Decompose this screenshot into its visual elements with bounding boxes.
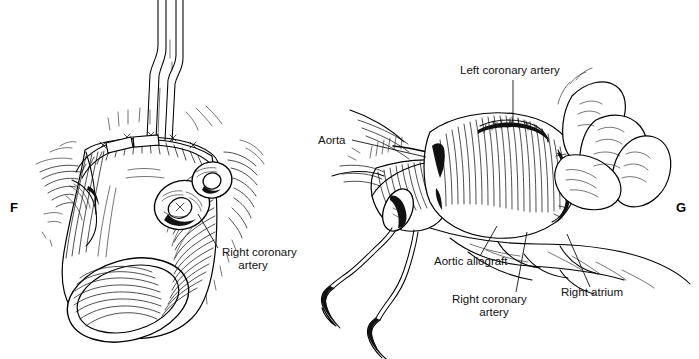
label-right-coronary-artery-g-line1: Right coronary: [452, 293, 527, 305]
panel-letter-f: F: [10, 200, 18, 215]
label-right-coronary-artery-f-line2: artery: [238, 259, 268, 271]
label-right-atrium: Right atrium: [561, 286, 623, 298]
label-right-coronary-artery-g-line2: artery: [479, 306, 509, 318]
illustration-canvas: Right coronary artery F: [0, 0, 699, 359]
figure-root: Right coronary artery F: [0, 0, 699, 359]
label-aortic-allograft: Aortic allograft: [434, 255, 508, 267]
panel-letter-g: G: [676, 200, 686, 215]
label-aorta: Aorta: [318, 134, 346, 146]
label-right-coronary-artery-f-line1: Right coronary: [222, 246, 297, 258]
label-left-coronary-artery: Left coronary artery: [460, 64, 560, 76]
